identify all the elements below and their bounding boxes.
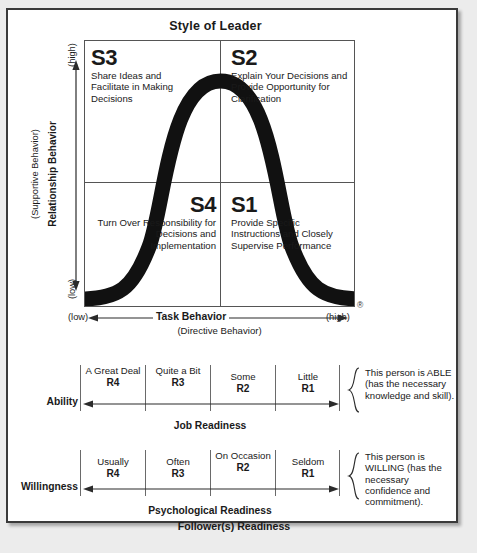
x-axis-label: Task Behavior [153,311,229,322]
quadrant-s4: S4 Turn Over Responsibility for Decision… [91,193,216,251]
ability-cell-r1-text: Little [298,371,318,382]
diagram-page: Style of Leader (Supportive Behavior) Re… [0,0,477,553]
ability-cell-r2-text: Some [230,371,255,382]
x-axis-sub-label: (Directive Behavior) [84,325,355,336]
quadrant-s1-text: Provide Specific Instructions and Closel… [231,217,333,251]
matrix-vertical-divider [220,41,221,306]
quadrant-s4-text: Turn Over Responsibility for Decisions a… [97,217,216,251]
willingness-cell-r1-code: R1 [279,468,337,479]
ability-cell-r3-text: Quite a Bit [156,365,201,376]
ability-cell-r1: Little R1 [279,371,337,394]
willingness-cell-r2-code: R2 [214,462,272,473]
willingness-label: Willingness [10,481,78,492]
willingness-brace-icon [347,452,361,500]
y-axis-arrow-icon [70,40,82,307]
ability-cell-r3-code: R3 [149,377,207,388]
willingness-cell-r2-text: On Occasion [215,450,270,461]
willingness-cell-r2: On Occasion R2 [214,450,272,473]
ability-arrow-icon [82,398,340,410]
quadrant-s4-code: S4 [91,193,216,216]
willingness-sub-label: Psychological Readiness [80,505,340,516]
y-axis-outer-label: (Supportive Behavior) [27,40,43,307]
willingness-cell-r3-text: Often [166,456,189,467]
quadrant-s2-text: Explain Your Decisions and Provide Oppor… [231,70,347,104]
quadrant-s1: S1 Provide Specific Instructions and Clo… [231,193,349,251]
quadrant-s3-text: Share Ideas and Facilitate in Making Dec… [91,70,173,104]
quadrant-s2-code: S2 [231,46,349,69]
quadrant-s2: S2 Explain Your Decisions and Provide Op… [231,46,349,104]
ability-label: Ability [16,396,78,407]
ability-cell-r2: Some R2 [214,371,272,394]
matrix-horizontal-divider [85,182,354,183]
ability-cell-r4-code: R4 [84,377,142,388]
willingness-tick-0 [80,450,81,496]
quadrant-s1-code: S1 [231,193,349,216]
willingness-cell-r4-text: Usually [97,456,128,467]
ability-brace-icon [347,367,361,413]
willingness-arrow-icon [82,483,340,495]
quadrant-s3-code: S3 [91,46,195,69]
willingness-cell-r3: Often R3 [149,456,207,479]
ability-cell-r4: A Great Deal R4 [84,365,142,388]
footer-label: Follower(s) Readiness [8,520,460,532]
willingness-cell-r4: Usually R4 [84,456,142,479]
registered-trademark-icon: ® [357,300,363,310]
willingness-note: This person is WILLING (has the necessar… [365,451,455,507]
willingness-cell-r1-text: Seldom [292,456,325,467]
diagram-frame: Style of Leader (Supportive Behavior) Re… [6,8,458,523]
y-axis-inner-label-text: Relationship Behavior [47,121,58,227]
ability-tick-0 [80,365,81,411]
quadrant-s3: S3 Share Ideas and Facilitate in Making … [91,46,195,104]
y-axis-outer-label-text: (Supportive Behavior) [30,129,40,219]
ability-sub-label: Job Readiness [80,420,340,431]
y-axis-inner-label: Relationship Behavior [44,40,60,307]
leadership-style-matrix: S3 Share Ideas and Facilitate in Making … [84,40,355,307]
willingness-cell-r1: Seldom R1 [279,456,337,479]
ability-cell-r1-code: R1 [279,383,337,394]
willingness-cell-r4-code: R4 [84,468,142,479]
page-title: Style of Leader [78,19,353,33]
willingness-cell-r3-code: R3 [149,468,207,479]
ability-cell-r2-code: R2 [214,383,272,394]
ability-cell-r3: Quite a Bit R3 [149,365,207,388]
ability-cell-r4-text: A Great Deal [86,365,141,376]
ability-note: This person is ABLE (has the necessary k… [365,367,457,401]
